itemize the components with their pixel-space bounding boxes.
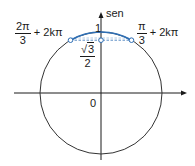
left-angle-numerator: 2π — [15, 21, 31, 34]
vertical-axis-arrow-icon — [99, 12, 104, 18]
top-value-label: 1 — [95, 23, 101, 34]
sine-value-denominator: 2 — [85, 57, 91, 69]
right-angle-denominator: 3 — [139, 34, 145, 46]
sine-value-numerator: √3 — [80, 44, 95, 57]
origin-label: 0 — [90, 98, 96, 109]
point-pi-over-3 — [129, 38, 134, 43]
sine-value-label: √3 2 — [80, 44, 95, 69]
left-angle-label: 2π 3 + 2kπ — [15, 21, 62, 46]
radicand: 3 — [87, 42, 94, 55]
right-angle-numerator: π — [137, 21, 147, 34]
right-angle-suffix: + 2kπ — [150, 26, 179, 38]
point-sine-value — [99, 38, 104, 43]
point-2pi-over-3 — [68, 38, 73, 43]
right-angle-label: π 3 + 2kπ — [137, 21, 178, 46]
right-angle-fraction: π 3 — [137, 21, 147, 46]
sine-value-fraction: √3 2 — [80, 44, 95, 69]
left-angle-suffix: + 2kπ — [34, 26, 63, 38]
left-angle-fraction: 2π 3 — [15, 21, 31, 46]
vertical-axis-label: sen — [106, 8, 124, 19]
horizontal-axis-arrow-icon — [181, 91, 187, 96]
left-angle-denominator: 3 — [20, 34, 26, 46]
